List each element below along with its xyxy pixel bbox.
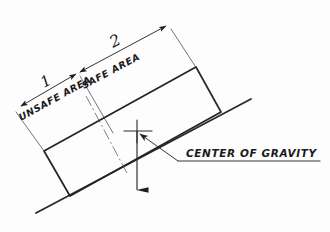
diagram-canvas: 1 2 UNSAFE AREA SAFE AREA CENTER OF GRAV…	[0, 0, 330, 232]
dim-safe-value: 2	[105, 30, 124, 52]
safe-area-label: SAFE AREA	[80, 51, 142, 91]
center-of-gravity-label: CENTER OF GRAVITY	[186, 147, 317, 159]
